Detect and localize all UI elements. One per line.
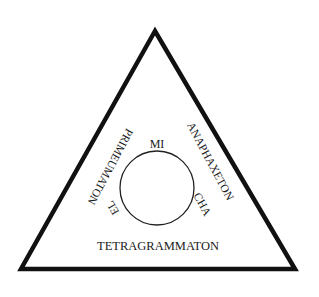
label-anaphaxeton: ANAPHAXETON xyxy=(185,120,237,203)
label-mi: MI xyxy=(150,137,165,151)
label-el: EL xyxy=(104,199,121,217)
diagram-canvas: PRIMEUMATON ANAPHAXETON TETRAGRAMMATON M… xyxy=(0,0,319,297)
label-cha: CHA xyxy=(192,191,214,219)
inner-circle xyxy=(120,151,194,225)
label-tetragrammaton: TETRAGRAMMATON xyxy=(97,239,219,253)
